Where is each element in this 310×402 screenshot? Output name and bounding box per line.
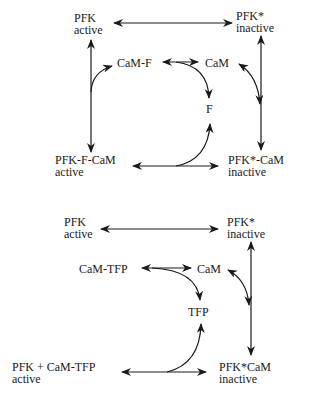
node-name: CaM-TFP (79, 262, 128, 276)
node-name: CaM (205, 56, 229, 70)
node-pfk-camtfp: PFK + CaM-TFP active (12, 361, 95, 385)
node-f: F (206, 103, 213, 115)
arrow-cam-to-vertical (239, 64, 260, 104)
arrows-layer (0, 0, 310, 402)
node-name: CaM (197, 262, 221, 276)
node-state: active (55, 166, 116, 178)
node-state: inactive (227, 228, 265, 240)
node-pfkstar-bottom: PFK* inactive (227, 216, 265, 240)
node-state: active (12, 373, 95, 385)
node-cam-top: CaM (205, 57, 229, 69)
node-state: inactive (228, 166, 284, 178)
node-pfk-bottom: PFK active (64, 216, 93, 240)
node-name: TFP (188, 305, 209, 319)
arrow-bottomline-to-tfp (167, 324, 201, 372)
node-state: inactive (236, 22, 274, 34)
node-name: CaM-F (117, 56, 152, 70)
arrow-to-camf (91, 66, 112, 92)
arrow-to-tfp (152, 268, 200, 300)
node-camtfp: CaM-TFP (79, 263, 128, 275)
node-pfk-top: PFK active (74, 12, 103, 36)
node-state: inactive (219, 373, 271, 385)
diagram-canvas: PFK active PFK* inactive CaM-F CaM F PFK… (0, 0, 310, 402)
node-state: active (74, 24, 103, 36)
node-pfkstar-top: PFK* inactive (236, 10, 274, 34)
node-pfkstarcam-bottom: PFK*CaM inactive (219, 361, 271, 385)
node-tfp: TFP (188, 306, 209, 318)
arrow-bottomline-to-f (176, 124, 210, 166)
node-name: F (206, 102, 213, 116)
node-camf: CaM-F (117, 57, 152, 69)
arrow-cam-to-vertical-bottom (228, 270, 249, 305)
node-cam-bottom: CaM (197, 263, 221, 275)
node-state: active (64, 228, 93, 240)
node-pfkfcam: PFK-F-CaM active (55, 154, 116, 178)
node-pfkstarcam-top: PFK*-CaM inactive (228, 154, 284, 178)
